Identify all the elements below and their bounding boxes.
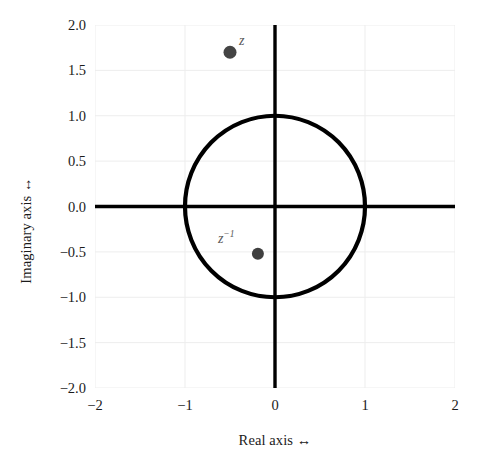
point-label-z-inverse: z−1: [218, 232, 235, 246]
plot-area: zz−1: [95, 25, 455, 388]
axis-lines: [95, 25, 455, 388]
point-label-z: z: [239, 34, 244, 48]
x-tick-label: 0: [245, 398, 305, 413]
x-tick-label: −1: [155, 398, 215, 413]
y-tick-label: −1.5: [24, 335, 86, 350]
y-tick-label: 1.5: [24, 63, 86, 78]
x-tick-label: 1: [335, 398, 395, 413]
y-tick-label: 0.5: [24, 154, 86, 169]
y-tick-label: 1.0: [24, 109, 86, 124]
y-tick-label: −0.5: [24, 245, 86, 260]
x-tick-label: −2: [65, 398, 125, 413]
x-axis-title: Real axis ↔: [95, 432, 455, 449]
complex-plane-figure: Imaginary axis ↔ 2.01.51.00.50.0−0.5−1.0…: [0, 0, 477, 461]
data-point-markers: [224, 46, 264, 260]
x-tick-label-group: −2−1012: [0, 398, 477, 422]
plot-canvas: [95, 25, 455, 388]
point-label-exponent: −1: [223, 229, 234, 239]
x-tick-label: 2: [425, 398, 477, 413]
data-point-z-inverse[interactable]: [252, 248, 264, 260]
y-tick-label: 0.0: [24, 199, 86, 214]
y-tick-label-group: 2.01.51.00.50.0−0.5−1.0−1.5−2.0: [20, 0, 86, 461]
y-tick-label: −1.0: [24, 290, 86, 305]
y-tick-label: −2.0: [24, 381, 86, 396]
data-point-z[interactable]: [224, 46, 237, 59]
y-tick-label: 2.0: [24, 18, 86, 33]
